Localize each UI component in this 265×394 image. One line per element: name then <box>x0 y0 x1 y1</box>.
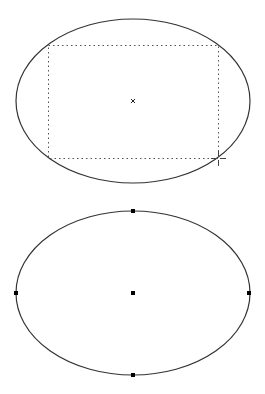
handle-bottom[interactable] <box>131 373 135 377</box>
ellipse-being-drawn <box>16 19 250 183</box>
x-mark-icon <box>131 99 135 103</box>
drawing-canvas[interactable] <box>0 0 265 394</box>
handle-left[interactable] <box>14 291 18 295</box>
handle-right[interactable] <box>247 291 251 295</box>
handle-center[interactable] <box>131 291 135 295</box>
ellipse-selected[interactable] <box>14 209 251 377</box>
handle-top[interactable] <box>131 209 135 213</box>
